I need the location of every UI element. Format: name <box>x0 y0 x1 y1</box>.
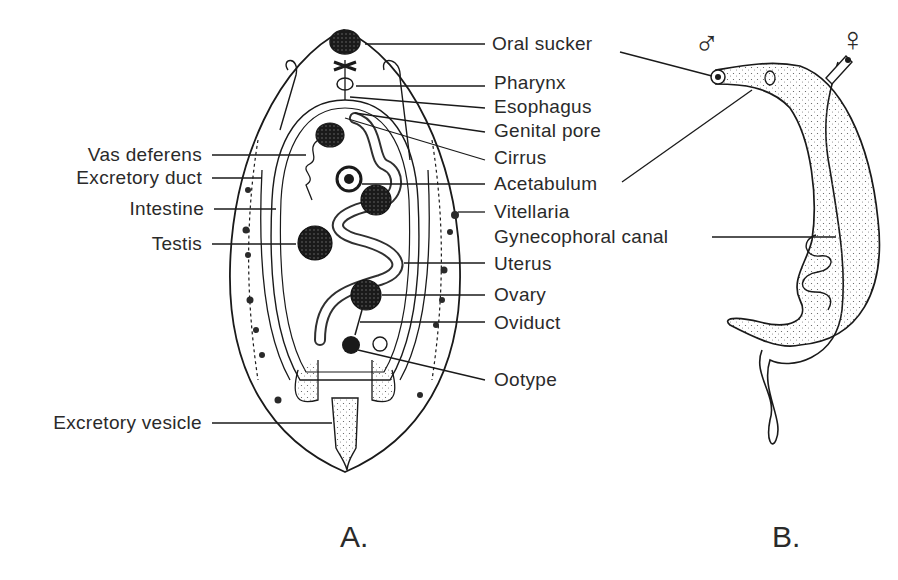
label-uterus: Uterus <box>494 253 552 275</box>
label-testis: Testis <box>152 233 202 255</box>
label-excretory-duct: Excretory duct <box>76 167 202 189</box>
label-oviduct: Oviduct <box>494 312 561 334</box>
label-intestine: Intestine <box>129 198 204 220</box>
cirrus <box>316 123 344 147</box>
ovary <box>351 280 381 310</box>
label-cirrus: Cirrus <box>494 147 546 169</box>
label-oral-sucker: Oral sucker <box>492 33 592 55</box>
label-pharynx: Pharynx <box>494 72 566 94</box>
ootype <box>342 336 360 354</box>
female-symbol: ♀ <box>840 22 866 56</box>
label-genital-pore: Genital pore <box>494 120 601 142</box>
vas-deferens <box>306 140 318 200</box>
male-worm <box>716 63 879 346</box>
panel-label-a: A. <box>340 520 368 554</box>
label-excretory-vesicle: Excretory vesicle <box>53 412 202 434</box>
label-vas-deferens: Vas deferens <box>88 144 202 166</box>
male-symbol: ♂ <box>694 26 720 60</box>
label-ootype: Ootype <box>494 369 557 391</box>
label-ovary: Ovary <box>494 284 546 306</box>
testis-lower <box>298 226 332 260</box>
label-esophagus: Esophagus <box>494 96 592 118</box>
label-acetabulum: Acetabulum <box>494 173 597 195</box>
label-vitellaria: Vitellaria <box>494 201 570 223</box>
schistosome-pair <box>711 56 879 444</box>
excretory-vesicle <box>332 398 358 470</box>
figure-artwork <box>0 0 898 580</box>
oral-sucker <box>330 30 360 54</box>
panel-label-b: B. <box>772 520 800 554</box>
testis-upper <box>361 185 391 215</box>
label-gynecophoral-canal: Gynecophoral canal <box>494 226 668 248</box>
